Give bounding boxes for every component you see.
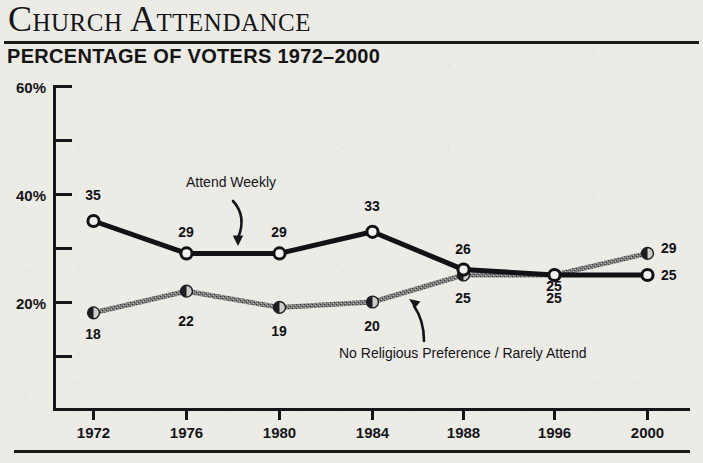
data-label-weekly-1984: 33 [352, 198, 392, 214]
data-label-weekly-1980: 29 [259, 224, 299, 240]
x-tick-label-1976: 1976 [151, 424, 222, 441]
data-label-weekly-1972: 35 [73, 187, 113, 203]
data-label-weekly-2000: 25 [661, 267, 701, 283]
data-label-weekly-1988: 26 [443, 241, 483, 257]
x-axis-ticks [94, 410, 648, 420]
chart-canvas [0, 0, 703, 463]
data-label-none-1984: 20 [352, 318, 392, 334]
data-label-none-2000: 29 [661, 240, 701, 256]
data-label-none-1980: 19 [259, 323, 299, 339]
data-label-weekly-1976: 29 [166, 224, 206, 240]
data-point-marker-weekly [181, 248, 192, 259]
x-tick-label-1972: 1972 [58, 424, 129, 441]
x-tick-label-1984: 1984 [337, 424, 408, 441]
data-point-marker-weekly [88, 215, 99, 226]
data-label-none-1972: 18 [73, 326, 113, 342]
x-tick-label-2000: 2000 [612, 424, 683, 441]
x-tick-label-1996: 1996 [519, 424, 590, 441]
data-label-none-1976: 22 [166, 313, 206, 329]
y-axis-ticks [54, 87, 72, 357]
annotation-arrows [233, 201, 424, 341]
data-point-marker-weekly [274, 248, 285, 259]
data-label-none-1988: 25 [443, 290, 483, 306]
annotation-no-religious-preference: No Religious Preference / Rarely Attend [339, 345, 586, 361]
data-label-none-1996: 25 [534, 290, 574, 306]
y-tick-label-20: 20% [0, 295, 46, 312]
y-tick-label-60: 60% [0, 79, 46, 96]
data-point-marker-weekly [458, 264, 469, 275]
x-tick-label-1988: 1988 [428, 424, 499, 441]
data-point-marker-weekly [642, 269, 653, 280]
annotation-attend-weekly: Attend Weekly [186, 174, 276, 190]
plot-area: 60% 40% 20% 1972 1976 1980 1984 1988 199… [0, 0, 703, 463]
data-point-marker-weekly [367, 226, 378, 237]
church-attendance-chart: Church Attendance PERCENTAGE OF VOTERS 1… [0, 0, 703, 463]
x-tick-label-1980: 1980 [244, 424, 315, 441]
axis-lines [53, 85, 690, 411]
y-tick-label-40: 40% [0, 187, 46, 204]
